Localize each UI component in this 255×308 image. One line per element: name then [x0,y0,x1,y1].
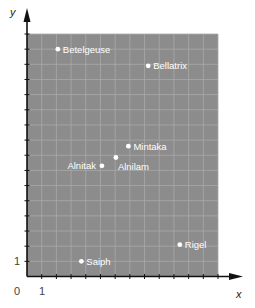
star-dot-icon [126,144,131,149]
star-label: Alnilam [118,161,149,172]
star-dot-icon [100,163,105,168]
star-label: Alnitak [67,160,96,171]
x-axis-label: x [235,288,242,300]
star-label: Bellatrix [153,60,187,71]
star-label: Saiph [86,256,110,267]
star-dot-icon [177,242,182,247]
star-label: Mintaka [133,141,167,152]
star-dot-icon [113,155,118,160]
scatter-chart: y x 0 1 1 BetelgeuseBellatrixMintakaAlni… [0,0,255,308]
star-label: Rigel [185,239,207,250]
star-label: Betelgeuse [63,44,111,55]
origin-tick-label: 0 [14,285,20,297]
y-axis-label: y [9,6,17,18]
y-tick-label-1: 1 [14,255,20,267]
star-dot-icon [79,259,84,264]
x-tick-label-1: 1 [39,285,45,297]
star-dot-icon [55,47,60,52]
star-dot-icon [146,63,151,68]
y-axis-arrowhead-icon [24,8,31,22]
star-point-betelgeuse: Betelgeuse [55,44,110,55]
x-axis-arrowhead-icon [229,273,243,280]
